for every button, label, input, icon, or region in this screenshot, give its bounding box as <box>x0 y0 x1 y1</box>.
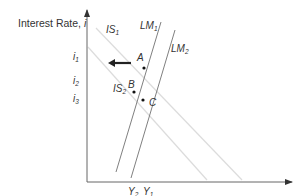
point-c-label: C <box>149 97 157 108</box>
is1-label: IS1 <box>106 24 119 36</box>
point-c <box>141 98 144 101</box>
shift-arrowhead-icon <box>108 59 115 67</box>
x-tick-y1: Y1 <box>143 186 154 196</box>
y-tick-i3: i3 <box>73 93 79 105</box>
y-tick-i2: i2 <box>73 75 79 87</box>
y-axis-label: Interest Rate, i <box>18 17 87 29</box>
x-tick-y2: Y2 <box>128 186 139 196</box>
point-a-label: A <box>136 52 144 63</box>
y-tick-i1: i1 <box>73 51 79 63</box>
point-b-label: B <box>128 79 135 90</box>
lm2-label: LM2 <box>171 43 189 55</box>
islm-diagram: Interest Rate, i IS1 LM1 LM2 IS2 A B C i… <box>0 0 307 196</box>
point-a <box>142 66 145 69</box>
is2-label: IS2 <box>113 83 126 95</box>
point-b <box>132 90 135 93</box>
lm1-label: LM1 <box>140 20 158 32</box>
